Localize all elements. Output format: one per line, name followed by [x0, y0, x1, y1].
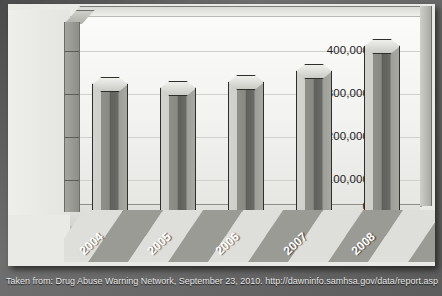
y-tick-label-100000: 100,000: [327, 173, 369, 185]
photo-frame: 400,000 300,000 200,000 100,000 0: [0, 0, 442, 296]
y-axis-panel: [8, 10, 70, 215]
bar-2006[interactable]: [228, 75, 264, 212]
chart-page: 400,000 300,000 200,000 100,000 0: [8, 4, 435, 266]
bar-shaft: [160, 88, 196, 212]
bar-shaft: [228, 82, 264, 212]
bar-2008[interactable]: [364, 39, 400, 212]
tick-notch-200000: [64, 137, 79, 138]
tick-notch-100000: [64, 180, 79, 181]
y-tick-label-400000: 400,000: [327, 44, 369, 56]
bar-shaft: [296, 71, 332, 212]
x-axis-category-band: 2004 2005 2006 2007 2008: [64, 210, 435, 262]
bar-2005[interactable]: [160, 81, 196, 212]
bar-shaft: [364, 46, 400, 212]
tick-notch-300000: [64, 94, 79, 95]
bar-shaft: [92, 84, 128, 212]
wall-right-edge: [420, 6, 432, 206]
bar-2004[interactable]: [92, 77, 128, 212]
source-caption: Taken from: Drug Abuse Warning Network, …: [6, 276, 438, 286]
y-tick-label-200000: 200,000: [327, 130, 369, 142]
bar-2007[interactable]: [296, 64, 332, 212]
tick-notch-400000: [64, 51, 79, 52]
y-tick-label-300000: 300,000: [327, 87, 369, 99]
